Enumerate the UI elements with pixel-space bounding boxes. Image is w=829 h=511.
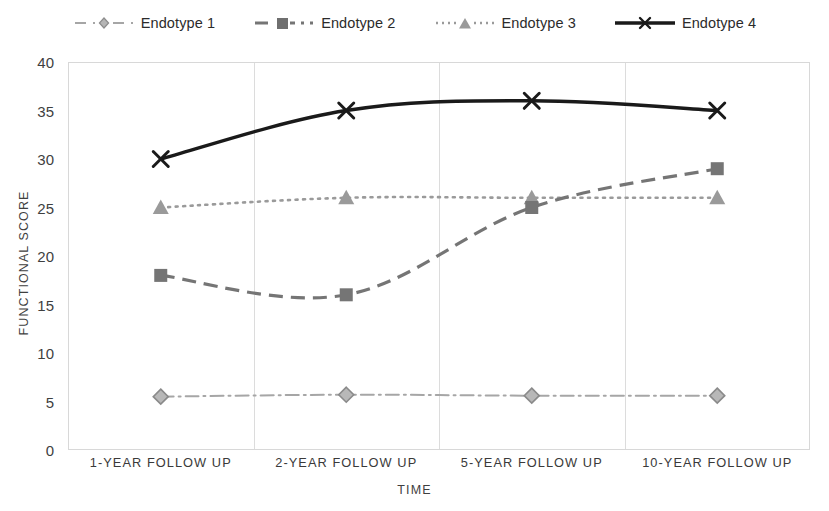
legend-item-endotype-1[interactable]: Endotype 1 xyxy=(73,15,215,31)
y-tick-15: 15 xyxy=(37,296,54,313)
series-endotype-4 xyxy=(153,93,725,166)
legend-marker-x-icon xyxy=(614,16,676,30)
series-endotype-3 xyxy=(153,190,726,214)
datapoint-endotype-1-3 xyxy=(710,388,725,403)
x-tick-1-year: 1-YEAR FOLLOW UP xyxy=(68,455,254,479)
y-tick-0: 0 xyxy=(46,442,54,459)
x-tick-10-year: 10-YEAR FOLLOW UP xyxy=(625,455,811,479)
y-tick-10: 10 xyxy=(37,345,54,362)
legend-marker-triangle-icon xyxy=(434,16,496,30)
y-tick-40: 40 xyxy=(37,54,54,71)
datapoint-endotype-2-2 xyxy=(525,201,538,214)
x-axis-title: TIME xyxy=(0,483,829,497)
legend-label-endotype-3: Endotype 3 xyxy=(502,15,576,31)
x-tick-5-year: 5-YEAR FOLLOW UP xyxy=(439,455,625,479)
datapoint-endotype-1-2 xyxy=(524,388,539,403)
chart-legend: Endotype 1 Endotype 2 End xyxy=(0,8,829,38)
datapoint-endotype-2-3 xyxy=(711,162,724,175)
datapoint-endotype-2-1 xyxy=(340,288,353,301)
series-layer xyxy=(68,62,810,450)
x-tick-2-year: 2-YEAR FOLLOW UP xyxy=(254,455,440,479)
series-endotype-1 xyxy=(153,387,725,404)
legend-item-endotype-4[interactable]: Endotype 4 xyxy=(614,15,756,31)
datapoint-endotype-3-3 xyxy=(709,190,725,205)
legend-item-endotype-3[interactable]: Endotype 3 xyxy=(434,15,576,31)
y-tick-5: 5 xyxy=(46,393,54,410)
legend-label-endotype-4: Endotype 4 xyxy=(682,15,756,31)
x-axis: 1-YEAR FOLLOW UP 2-YEAR FOLLOW UP 5-YEAR… xyxy=(68,455,810,479)
legend-marker-square-icon xyxy=(253,16,315,30)
y-tick-25: 25 xyxy=(37,199,54,216)
legend-label-endotype-2: Endotype 2 xyxy=(321,15,395,31)
y-axis-title: FUNCTIONAL SCORE xyxy=(17,163,31,363)
y-tick-20: 20 xyxy=(37,248,54,265)
datapoint-endotype-1-1 xyxy=(339,387,354,402)
y-tick-35: 35 xyxy=(37,102,54,119)
series-endotype-2 xyxy=(154,162,724,301)
legend-label-endotype-1: Endotype 1 xyxy=(141,15,215,31)
y-tick-30: 30 xyxy=(37,151,54,168)
datapoint-endotype-1-0 xyxy=(153,389,168,404)
datapoint-endotype-3-0 xyxy=(153,200,169,215)
datapoint-endotype-2-0 xyxy=(154,269,167,282)
legend-item-endotype-2[interactable]: Endotype 2 xyxy=(253,15,395,31)
y-axis: 40 35 30 25 20 15 10 5 0 xyxy=(0,0,62,511)
legend-marker-diamond-icon xyxy=(73,16,135,30)
functional-score-line-chart: Endotype 1 Endotype 2 End xyxy=(0,0,829,511)
